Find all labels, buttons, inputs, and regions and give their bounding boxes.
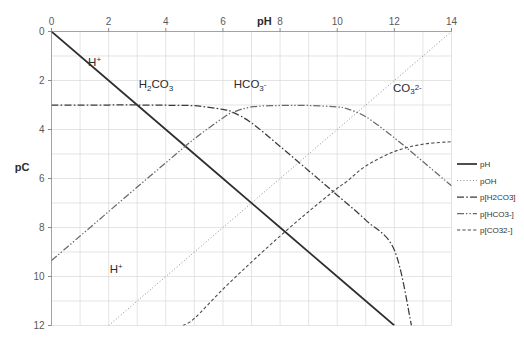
axis-titles: pHpC [15, 15, 272, 174]
x-tick-label: 10 [332, 16, 344, 27]
legend-label-poh: pOH [480, 177, 497, 186]
legend-label-ph: pH [480, 160, 490, 169]
x-axis-title: pH [257, 15, 272, 27]
annotation-hplus-upper: H+ [88, 55, 101, 68]
x-tick-label: 14 [446, 16, 458, 27]
legend-label-phco3-: p[HCO3-] [480, 210, 514, 219]
y-tick-label: 4 [39, 124, 45, 135]
annotation-co3: CO32- [393, 82, 422, 97]
x-tick-label: 2 [106, 16, 112, 27]
y-axis-title: pC [15, 161, 30, 173]
y-tick-label: 12 [33, 320, 45, 331]
series-line-ph2co3 [52, 105, 412, 326]
y-tick-label: 8 [39, 222, 45, 233]
y-tick-label: 2 [39, 75, 45, 86]
y-tick-label: 10 [33, 271, 45, 282]
legend: pHpOHp[H2CO3]p[HCO3-]p[CO32-] [457, 160, 516, 235]
x-tick-label: 6 [220, 16, 226, 27]
x-tick-label: 0 [49, 16, 55, 27]
x-axis-tick-labels: 02468101214 [49, 16, 458, 27]
pc-ph-diagram: 02468101214 024681012 pHpC H+H+H2CO3HCO3… [0, 0, 524, 348]
chart-canvas: 02468101214 024681012 pHpC H+H+H2CO3HCO3… [0, 0, 524, 348]
x-tick-label: 12 [389, 16, 401, 27]
y-tick-label: 0 [39, 26, 45, 37]
y-tick-label: 6 [39, 173, 45, 184]
grid-layer [52, 32, 452, 326]
annotation-hplus-lower: H+ [110, 262, 123, 275]
legend-label-ph2co3: p[H2CO3] [480, 193, 516, 202]
x-tick-label: 4 [163, 16, 169, 27]
series-annotations: H+H+H2CO3HCO3-CO32- [88, 55, 422, 275]
legend-label-pco32-: p[CO32-] [480, 226, 512, 235]
y-axis-tick-labels: 024681012 [33, 26, 45, 331]
x-tick-label: 8 [277, 16, 283, 27]
annotation-h2co3: H2CO3 [139, 78, 174, 93]
